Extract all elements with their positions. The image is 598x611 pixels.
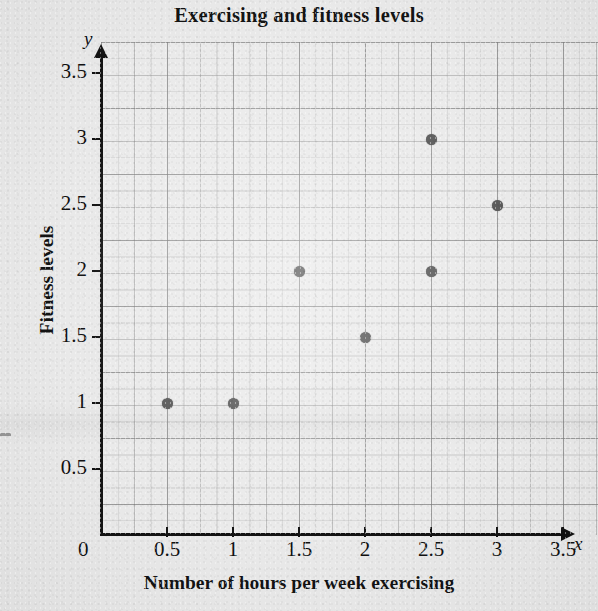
- data-point: [162, 398, 173, 409]
- chart-title: Exercising and fitness levels: [0, 4, 598, 27]
- x-tick-label: 3.5: [533, 537, 593, 562]
- x-axis-title: Number of hours per week exercising: [0, 572, 598, 594]
- origin-tick-label: 0: [78, 537, 89, 562]
- x-tick: [364, 527, 366, 537]
- x-tick-label: 3: [467, 537, 527, 562]
- y-tick-label: 3.5: [27, 59, 87, 84]
- x-tick-label: 2.5: [401, 537, 461, 562]
- plot-grid: [101, 42, 598, 535]
- y-tick-label: 0.5: [27, 455, 87, 480]
- x-tick-label: 0.5: [137, 537, 197, 562]
- y-tick: [92, 336, 103, 338]
- y-tick: [92, 204, 103, 206]
- y-tick: [92, 72, 103, 74]
- y-tick-label: 3: [27, 125, 87, 150]
- y-axis-title: Fitness levels: [36, 170, 58, 390]
- x-tick-label: 1: [203, 537, 263, 562]
- x-tick: [298, 527, 300, 537]
- data-point: [294, 266, 305, 277]
- x-tick-label: 1.5: [269, 537, 329, 562]
- data-point: [360, 332, 371, 343]
- y-tick: [92, 270, 103, 272]
- data-point: [426, 266, 437, 277]
- y-axis-arrow-icon: [94, 44, 108, 58]
- y-tick: [92, 138, 103, 140]
- y-tick: [92, 402, 103, 404]
- data-point: [228, 398, 239, 409]
- x-tick: [232, 527, 234, 537]
- y-tick: [92, 468, 103, 470]
- data-point: [492, 200, 503, 211]
- data-point: [426, 134, 437, 145]
- y-axis-line: [100, 58, 103, 536]
- scatter-plot-figure: Exercising and fitness levels x y 0 0.51…: [0, 0, 598, 611]
- page-edge-mark: [0, 433, 11, 436]
- x-tick: [430, 527, 432, 537]
- x-tick-label: 2: [335, 537, 395, 562]
- y-tick-label: 1: [27, 389, 87, 414]
- x-tick: [562, 527, 564, 537]
- x-tick: [496, 527, 498, 537]
- x-tick: [166, 527, 168, 537]
- y-axis-variable-label: y: [84, 28, 92, 50]
